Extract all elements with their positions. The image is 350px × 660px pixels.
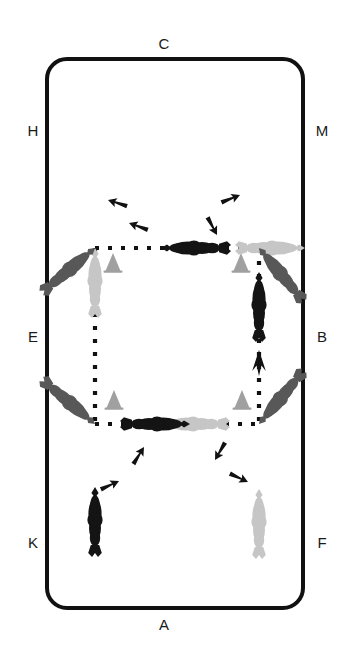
dressage-arena-diagram: C H M E B K F A <box>0 0 350 660</box>
arena-scene <box>0 0 350 660</box>
arena-letter-f: F <box>310 535 334 550</box>
arena-letter-h: H <box>21 123 45 138</box>
arena-letter-a: A <box>152 617 176 632</box>
arena-letter-k: K <box>21 535 45 550</box>
arena-letter-b: B <box>310 329 334 344</box>
arena-letter-m: M <box>310 123 334 138</box>
arena-letter-e: E <box>21 329 45 344</box>
arena-letter-c: C <box>152 36 176 51</box>
